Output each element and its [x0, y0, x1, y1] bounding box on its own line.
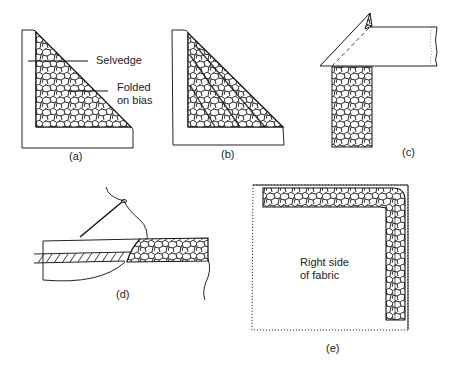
caption-a: (a): [69, 150, 82, 162]
panel-d: [34, 187, 210, 300]
caption-d: (d): [116, 288, 129, 300]
panel-b: [172, 30, 284, 145]
caption-b: (b): [221, 148, 234, 160]
panel-c: [320, 13, 437, 147]
folded-label-line1: Folded: [117, 81, 151, 94]
folded-label-line2: on bias: [117, 94, 152, 107]
caption-e: (e): [326, 342, 339, 354]
diagram-canvas: [0, 0, 460, 370]
caption-c: (c): [402, 146, 415, 158]
right-side-label-line2: of fabric: [300, 269, 339, 282]
selvedge-label: Selvedge: [96, 54, 142, 67]
right-side-label-line1: Right side: [300, 256, 349, 269]
